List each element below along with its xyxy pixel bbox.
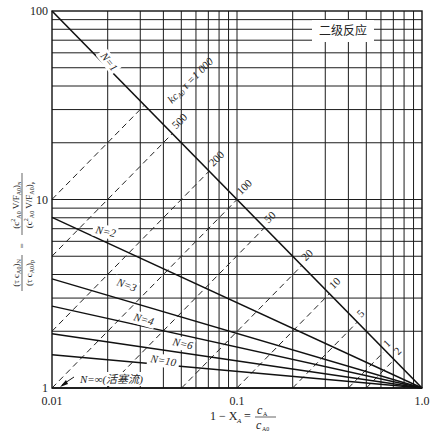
label-N=10: N=10 bbox=[149, 352, 178, 369]
label-N=2: N=2 bbox=[94, 223, 118, 239]
dashed-k10 bbox=[237, 294, 330, 388]
title-text: 二级反应 bbox=[319, 23, 367, 38]
dashed-tau-lines bbox=[52, 105, 394, 388]
svg-text:A: A bbox=[263, 411, 268, 417]
dashed-k1000 bbox=[52, 105, 144, 199]
svg-text:=: = bbox=[244, 409, 251, 423]
y-tick: 1 bbox=[42, 381, 48, 395]
arrowhead-icon bbox=[60, 380, 68, 387]
svg-text:(c2A0 V/FA0)N: (c2A0 V/FA0)N bbox=[10, 181, 22, 229]
curve-labels: 500200100502010521kcA0 τ =1 000N=1N=2N=3… bbox=[60, 47, 403, 387]
dashed-k20 bbox=[182, 266, 302, 388]
label-k20: 20 bbox=[299, 246, 316, 263]
label-k500: 500 bbox=[169, 110, 190, 131]
svg-text:=: = bbox=[17, 243, 27, 248]
label-plug-flow: N=∞(活塞流) bbox=[79, 373, 143, 386]
svg-text:(τ cA0)N: (τ cA0)N bbox=[11, 259, 22, 287]
dashed-k200 bbox=[52, 171, 209, 331]
svg-text:1 − X: 1 − X bbox=[210, 409, 238, 423]
label-k10: 10 bbox=[326, 274, 343, 291]
label-k200: 200 bbox=[206, 148, 227, 169]
chart-plot: 0.010.11.0110100 500200100502010521kcA0 … bbox=[0, 0, 439, 439]
x-axis-label: 1 − X A = c A c A0 bbox=[210, 404, 290, 438]
svg-text:A: A bbox=[236, 417, 242, 425]
chart-title: 二级反应 bbox=[312, 20, 374, 42]
axis-tick-labels: 0.010.11.0110100 bbox=[30, 4, 430, 408]
dashed-k100 bbox=[52, 200, 237, 389]
label-k1000: kcA0 τ =1 000 bbox=[165, 55, 217, 107]
x-tick: 1.0 bbox=[415, 394, 430, 408]
label-k50: 50 bbox=[262, 208, 279, 225]
y-axis-label: (τ cA0)N (τ cA0)p = (c2A0 V/FA0)N (c2A0 … bbox=[2, 158, 42, 308]
svg-text:(c2A0 V/FA0)p: (c2A0 V/FA0)p bbox=[23, 181, 35, 228]
y-tick: 100 bbox=[30, 4, 48, 18]
x-tick: 0.01 bbox=[42, 394, 63, 408]
label-k5: 5 bbox=[354, 307, 367, 320]
svg-text:(τ cA0)p: (τ cA0)p bbox=[24, 260, 35, 286]
svg-text:A0: A0 bbox=[262, 426, 269, 432]
